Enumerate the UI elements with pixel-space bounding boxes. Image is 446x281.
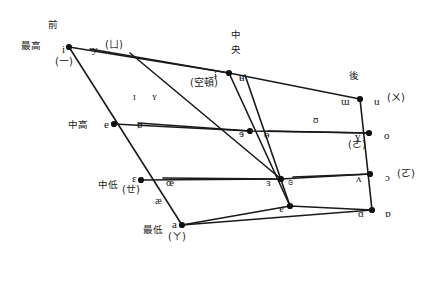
- vowel-symbol-u: u: [374, 96, 380, 107]
- vowel-symbol-small-cap-y: ʏ: [152, 92, 157, 102]
- vowel-symbol-turned-a: ɐ: [279, 203, 284, 214]
- vowel-dot-e: [111, 121, 117, 127]
- chart-line-back-inner: [268, 131, 369, 133]
- chart-line-mid-inner: [138, 123, 250, 131]
- vowel-symbol-turned-v: ʌ: [356, 173, 362, 184]
- vowel-symbol-barred-o: ɵ: [264, 129, 270, 140]
- chart-line-low-inner: [163, 178, 281, 179]
- axis-label-back: 後: [349, 71, 359, 81]
- axis-label-open-mid: 中低: [98, 180, 118, 190]
- vowel-symbol-a: a: [172, 219, 177, 230]
- axis-label-central-2: 央: [231, 45, 241, 55]
- axis-label-close-mid: 中高: [68, 120, 88, 130]
- vowel-symbol-i: i: [62, 44, 65, 55]
- vowel-symbol-ae-lig: æ: [155, 196, 162, 206]
- vowel-symbol-closed-open-e: ɞ: [288, 176, 293, 187]
- vowel-symbol-oe-lig: œ: [166, 177, 174, 188]
- vowel-dot-turned-a: [287, 203, 293, 209]
- vowel-dot-rev-open-e: [278, 176, 284, 182]
- vowel-dot-turned-m: [357, 96, 363, 102]
- vowel-dot-i: [66, 44, 72, 50]
- annotation-ann-ii: (空頓): [190, 78, 218, 88]
- annotation-ann-y: (ㄩ): [105, 40, 123, 50]
- vowel-symbol-y: y: [92, 44, 98, 55]
- annotation-ann-i: (一): [55, 57, 73, 67]
- vowel-symbol-upsilon: ʊ: [313, 115, 319, 125]
- annotation-ann-oo: (ㄛ): [397, 169, 415, 179]
- vowel-symbol-open-e: ɛ: [132, 173, 137, 184]
- chart-line-front-edge: [69, 47, 182, 225]
- vowel-symbol-turned-m: ɯ: [341, 96, 350, 107]
- vowel-dot-turned-v: [367, 171, 373, 177]
- vowel-dot-barred-i: [226, 70, 232, 76]
- vowel-dot-rams-horn: [366, 130, 372, 136]
- vowel-dot-schwa-rev: [247, 128, 253, 134]
- annotation-ann-a: (ㄚ): [168, 232, 186, 242]
- annotation-ann-o: (ㄜ): [348, 140, 366, 150]
- axis-label-front: 前: [48, 20, 58, 30]
- vowel-symbol-script-a: ɑ: [358, 208, 364, 219]
- line-layer: [69, 47, 372, 225]
- vowel-symbol-o-slash: ø: [137, 119, 143, 130]
- chart-line-central-edge: [229, 73, 290, 206]
- vowel-symbol-e: e: [104, 119, 109, 130]
- vowel-symbol-turned-script-a: ɒ: [385, 208, 391, 219]
- vowel-symbol-barred-u: ʉ: [239, 72, 245, 83]
- annotation-ann-u: (ㄨ): [387, 93, 405, 103]
- vowel-chart-lines: [0, 0, 446, 281]
- vowel-symbol-small-cap-i: ɪ: [133, 92, 136, 102]
- chart-line-open-inner: [182, 210, 372, 225]
- axis-label-open: 最低: [143, 225, 163, 235]
- annotation-ann-e: (ㄝ): [122, 185, 140, 195]
- vowel-dot-a: [179, 222, 185, 228]
- vowel-dot-open-e: [138, 177, 144, 183]
- vowel-dot-script-a: [369, 207, 375, 213]
- chart-line-front-inner-a: [90, 49, 229, 73]
- axis-label-close: 最高: [21, 41, 41, 51]
- vowel-symbol-open-o: ɔ: [385, 172, 390, 183]
- vowel-symbol-schwa-rev: ɘ: [239, 128, 244, 139]
- axis-label-central-1: 中: [231, 30, 241, 40]
- vowel-chart: 前 中 央 後 最高 中高 中低 最低 iyɨʉɯuɪʏʊeøɘɵɣoɛœɜɞʌ…: [0, 0, 446, 281]
- chart-line-back-edge: [360, 99, 372, 210]
- vowel-symbol-rev-open-e: ɜ: [266, 177, 271, 188]
- vowel-symbol-o: o: [384, 130, 390, 141]
